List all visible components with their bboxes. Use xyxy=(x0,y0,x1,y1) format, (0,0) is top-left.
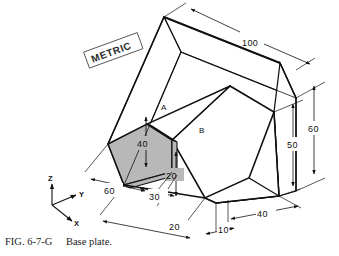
isometric-drawing: METRIC 100 60 50 xyxy=(0,0,339,256)
dim-60-bottom-label: 60 xyxy=(104,186,115,196)
axis-y-line xyxy=(52,195,76,205)
dim-100-line-a xyxy=(191,9,240,32)
axis-y-label: Y xyxy=(79,190,84,199)
face-b-label: B xyxy=(199,126,204,135)
dim-100-label: 100 xyxy=(242,38,258,48)
dim-60-right-label: 60 xyxy=(308,124,319,134)
dim-40-bottom-label: 40 xyxy=(257,209,268,219)
dimension-40-bottom: 40 xyxy=(231,206,298,220)
dim-60r-ext-top xyxy=(296,82,325,98)
figure-page: METRIC 100 60 50 xyxy=(0,0,339,256)
dimension-10-bottom: 10 xyxy=(206,222,234,235)
figure-caption: FIG. 6-7-G Base plate. xyxy=(5,236,112,247)
dimension-60-right: 60 xyxy=(296,82,325,191)
dim-50-right-label: 50 xyxy=(287,140,298,150)
dim-100-ext-left xyxy=(164,3,186,17)
dim-20-bottom-label: 20 xyxy=(169,222,180,232)
axis-triad: Z Y X xyxy=(48,174,84,228)
axis-x-label: X xyxy=(74,219,79,228)
figure-caption-id: FIG. 6-7-G xyxy=(5,236,52,247)
metric-note: METRIC xyxy=(84,33,143,68)
axis-z-label: Z xyxy=(48,174,53,183)
dim-100-ext-right xyxy=(296,58,315,70)
ext-left-from-block xyxy=(85,144,108,172)
dimension-20-bottom: 20 xyxy=(103,219,190,238)
axis-x-line xyxy=(52,205,72,221)
dim-10-bottom-label: 10 xyxy=(218,225,229,235)
dim-30-bottom-label: 30 xyxy=(149,192,160,202)
dimension-30-bottom: 30 xyxy=(140,188,174,203)
figure-caption-title: Base plate. xyxy=(66,236,112,247)
dim-60r-ext-bottom xyxy=(296,178,325,191)
dim-40-face-label: 40 xyxy=(137,139,148,149)
face-a-label: A xyxy=(161,103,167,112)
